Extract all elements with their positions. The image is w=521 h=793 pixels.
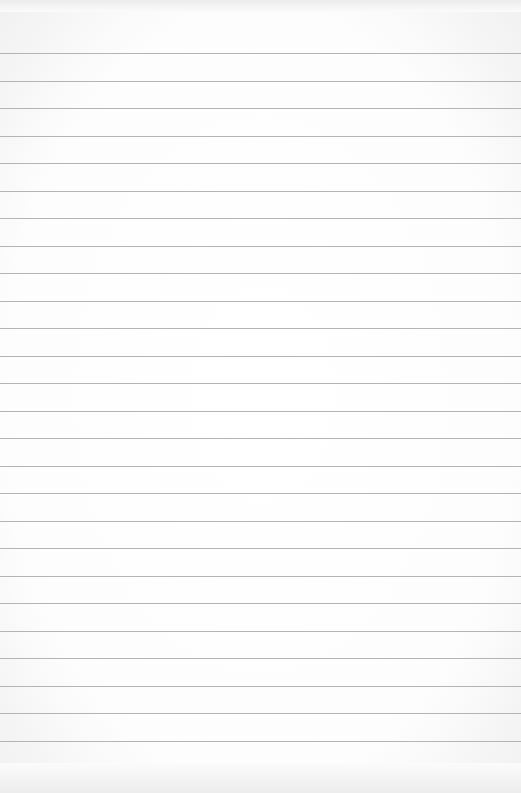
paper-bottom-edge [0, 763, 521, 793]
ruled-line [0, 411, 521, 412]
ruled-line [0, 273, 521, 274]
ruled-line [0, 603, 521, 604]
ruled-line [0, 191, 521, 192]
ruled-line [0, 163, 521, 164]
ruled-line [0, 53, 521, 54]
ruled-line [0, 108, 521, 109]
lined-paper-sheet [0, 0, 521, 793]
ruled-line [0, 81, 521, 82]
ruled-line [0, 218, 521, 219]
ruled-line [0, 301, 521, 302]
ruled-line [0, 136, 521, 137]
ruled-line [0, 328, 521, 329]
ruled-line [0, 713, 521, 714]
ruled-line [0, 466, 521, 467]
ruled-line [0, 438, 521, 439]
ruled-line [0, 493, 521, 494]
ruled-line [0, 246, 521, 247]
ruled-line [0, 741, 521, 742]
ruled-line [0, 356, 521, 357]
ruled-line [0, 521, 521, 522]
ruled-line [0, 686, 521, 687]
ruled-line [0, 631, 521, 632]
ruled-line [0, 576, 521, 577]
ruled-line [0, 383, 521, 384]
ruled-line [0, 658, 521, 659]
paper-top-edge [0, 0, 521, 12]
ruled-line [0, 548, 521, 549]
